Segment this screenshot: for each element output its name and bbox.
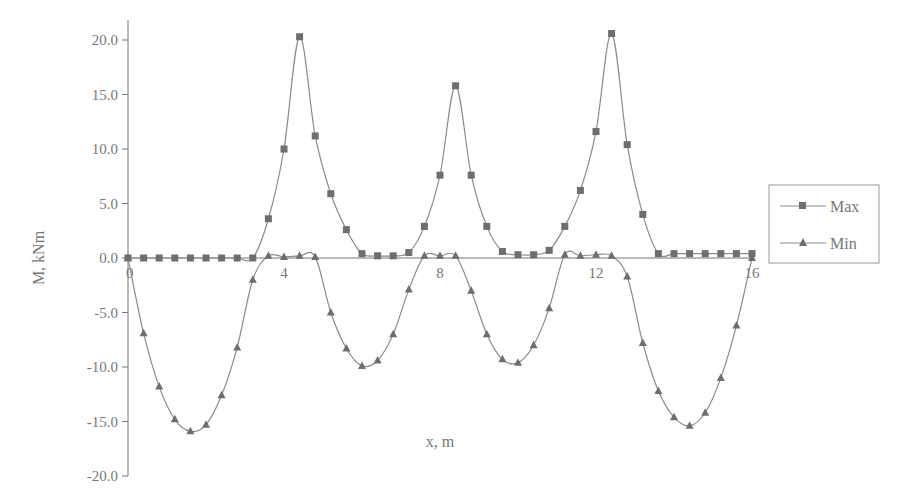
square-marker-icon	[799, 202, 806, 209]
triangle-marker-icon	[514, 358, 522, 366]
legend-label-min: Min	[830, 235, 857, 252]
square-marker-icon	[405, 249, 412, 256]
square-marker-icon	[296, 33, 303, 40]
triangle-marker-icon	[467, 286, 475, 294]
triangle-marker-icon	[545, 304, 553, 312]
square-marker-icon	[577, 187, 584, 194]
triangle-marker-icon	[140, 329, 148, 337]
square-marker-icon	[281, 146, 288, 153]
square-marker-icon	[639, 211, 646, 218]
square-marker-icon	[218, 255, 225, 262]
triangle-marker-icon	[420, 251, 428, 259]
y-tick-label: 20.0	[92, 32, 118, 48]
triangle-marker-icon	[233, 343, 241, 351]
square-marker-icon	[702, 250, 709, 257]
triangle-marker-icon	[639, 339, 647, 347]
square-marker-icon	[468, 172, 475, 179]
triangle-marker-icon	[483, 330, 491, 338]
triangle-marker-icon	[249, 275, 257, 283]
triangle-marker-icon	[358, 361, 366, 369]
square-marker-icon	[452, 82, 459, 89]
square-marker-icon	[717, 250, 724, 257]
square-marker-icon	[359, 250, 366, 257]
y-tick-label: 10.0	[92, 141, 118, 157]
triangle-marker-icon	[732, 321, 740, 329]
triangle-marker-icon	[389, 330, 397, 338]
square-marker-icon	[515, 251, 522, 258]
square-marker-icon	[671, 250, 678, 257]
legend: Max Min	[769, 185, 879, 263]
moment-envelope-chart: 20.015.010.05.00.0-5.0-10.0-15.0-20.0 04…	[0, 0, 899, 493]
triangle-marker-icon	[218, 391, 226, 399]
triangle-marker-icon	[155, 382, 163, 390]
square-marker-icon	[655, 250, 662, 257]
square-marker-icon	[561, 223, 568, 230]
triangle-marker-icon	[701, 408, 709, 416]
x-tick-label: 8	[436, 265, 444, 281]
y-tick-label: -15.0	[87, 414, 118, 430]
square-marker-icon	[374, 252, 381, 259]
y-axis: 20.015.010.05.00.0-5.0-10.0-15.0-20.0	[87, 20, 128, 484]
square-marker-icon	[312, 132, 319, 139]
square-marker-icon	[593, 128, 600, 135]
triangle-marker-icon	[530, 341, 538, 349]
triangle-marker-icon	[654, 386, 662, 394]
square-marker-icon	[499, 248, 506, 255]
series-max	[125, 30, 756, 262]
triangle-marker-icon	[623, 272, 631, 280]
y-tick-label: 0.0	[99, 250, 118, 266]
square-marker-icon	[421, 223, 428, 230]
square-marker-icon	[608, 30, 615, 37]
x-tick-label: 12	[589, 265, 604, 281]
square-marker-icon	[624, 141, 631, 148]
legend-box	[769, 185, 879, 263]
y-tick-label: -20.0	[87, 468, 118, 484]
square-marker-icon	[203, 255, 210, 262]
y-tick-label: -5.0	[94, 305, 118, 321]
square-marker-icon	[437, 172, 444, 179]
square-marker-icon	[343, 226, 350, 233]
square-marker-icon	[140, 255, 147, 262]
square-marker-icon	[546, 247, 553, 254]
square-marker-icon	[249, 255, 256, 262]
x-axis-title: x, m	[426, 433, 455, 450]
square-marker-icon	[530, 251, 537, 258]
y-tick-label: -10.0	[87, 359, 118, 375]
square-marker-icon	[686, 250, 693, 257]
triangle-marker-icon	[327, 308, 335, 316]
square-marker-icon	[390, 252, 397, 259]
legend-label-max: Max	[830, 198, 859, 215]
square-marker-icon	[483, 223, 490, 230]
y-tick-label: 5.0	[99, 196, 118, 212]
triangle-marker-icon	[405, 285, 413, 293]
square-marker-icon	[187, 255, 194, 262]
y-tick-label: 15.0	[92, 87, 118, 103]
square-marker-icon	[265, 215, 272, 222]
triangle-marker-icon	[717, 373, 725, 381]
x-tick-label: 4	[280, 265, 288, 281]
square-marker-icon	[171, 255, 178, 262]
y-axis-title: M, kNm	[30, 230, 47, 285]
square-marker-icon	[327, 190, 334, 197]
triangle-marker-icon	[342, 344, 350, 352]
plot-area	[124, 30, 756, 434]
triangle-marker-icon	[452, 251, 460, 259]
square-marker-icon	[156, 255, 163, 262]
square-marker-icon	[234, 255, 241, 262]
square-marker-icon	[733, 250, 740, 257]
